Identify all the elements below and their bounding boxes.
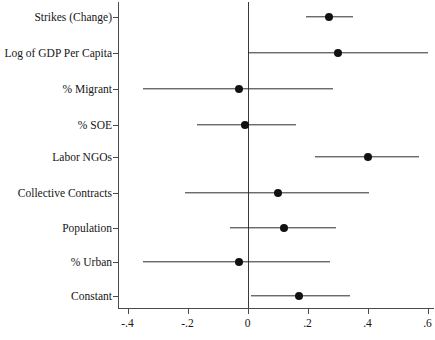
- y-axis-category-label: Collective Contracts: [18, 187, 112, 199]
- y-axis-tick: [113, 193, 118, 194]
- point-estimate-marker: [295, 292, 303, 300]
- x-axis-tick-label: .2: [303, 317, 312, 329]
- y-axis-tick: [113, 157, 118, 158]
- y-axis-category-label: % Migrant: [62, 83, 112, 95]
- point-estimate-marker: [241, 121, 249, 129]
- y-axis-category-label: Constant: [71, 290, 112, 302]
- point-estimate-marker: [235, 85, 243, 93]
- y-axis-category-label: Labor NGOs: [52, 151, 112, 163]
- x-axis-spine: [118, 308, 434, 309]
- point-estimate-marker: [325, 13, 333, 21]
- point-estimate-marker: [334, 49, 342, 57]
- y-axis-tick: [113, 262, 118, 263]
- y-axis-spine: [118, 2, 119, 308]
- point-estimate-marker: [235, 258, 243, 266]
- x-axis-tick: [308, 309, 309, 314]
- y-axis-tick: [113, 53, 118, 54]
- y-axis-labels: Strikes (Change)Log of GDP Per Capita% M…: [0, 0, 112, 340]
- x-axis-tick: [188, 309, 189, 314]
- x-axis-tick: [128, 309, 129, 314]
- point-estimate-marker: [274, 189, 282, 197]
- x-axis-tick-label: -.2: [181, 317, 193, 329]
- point-estimate-marker: [280, 224, 288, 232]
- x-axis-tick-label: 0: [245, 317, 251, 329]
- x-axis-tick-label: .4: [363, 317, 372, 329]
- y-axis-tick: [113, 296, 118, 297]
- y-axis-category-label: Population: [62, 222, 112, 234]
- y-axis-category-label: % SOE: [78, 119, 112, 131]
- coefficient-plot: Strikes (Change)Log of GDP Per Capita% M…: [0, 0, 435, 340]
- x-axis-tick-label: .6: [423, 317, 432, 329]
- y-axis-category-label: Strikes (Change): [34, 11, 112, 23]
- y-axis-category-label: % Urban: [71, 256, 112, 268]
- y-axis-tick: [113, 228, 118, 229]
- y-axis-category-label: Log of GDP Per Capita: [4, 47, 112, 59]
- y-axis-tick: [113, 125, 118, 126]
- x-axis-tick: [368, 309, 369, 314]
- x-axis-tick: [248, 309, 249, 314]
- y-axis-tick: [113, 17, 118, 18]
- x-axis-tick: [428, 309, 429, 314]
- y-axis-tick: [113, 89, 118, 90]
- x-axis-tick-label: -.4: [121, 317, 133, 329]
- point-estimate-marker: [364, 153, 372, 161]
